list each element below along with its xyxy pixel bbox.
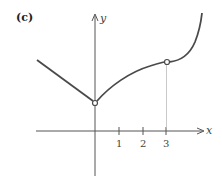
steep-curve xyxy=(169,13,202,62)
concave-curve xyxy=(97,62,164,101)
x-tick-label-1: 1 xyxy=(116,138,122,149)
x-tick-label-3: 3 xyxy=(163,138,169,149)
left-line-segment xyxy=(37,60,93,101)
x-axis-label: x xyxy=(206,124,213,137)
graph: (c) y x 1 2 3 xyxy=(0,0,222,180)
open-point-x3 xyxy=(165,60,170,65)
x-tick-label-2: 2 xyxy=(140,138,146,149)
open-point-x0 xyxy=(93,101,98,106)
figure-label: (c) xyxy=(16,11,33,24)
y-axis-label: y xyxy=(99,12,107,25)
